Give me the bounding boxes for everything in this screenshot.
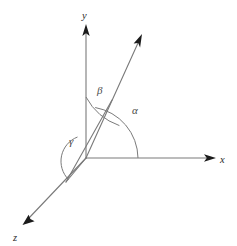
beta-angle-label: β: [96, 84, 103, 96]
alpha-angle-label: α: [132, 104, 138, 116]
gamma-angle-label: γ: [69, 135, 74, 147]
coordinate-axes-diagram: y x z α β γ: [0, 0, 237, 246]
figure-canvas: y x z α β γ: [0, 0, 237, 246]
x-axis-label: x: [219, 154, 225, 165]
z-axis-label: z: [12, 232, 17, 243]
z-axis-arrowhead: [23, 215, 35, 225]
projection-line-foot-to-origin: [66, 158, 86, 182]
direction-vector-arrowhead: [134, 34, 142, 47]
z-axis-line: [29, 158, 86, 218]
y-axis-label: y: [81, 10, 87, 21]
